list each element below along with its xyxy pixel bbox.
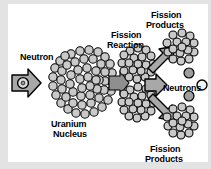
label-fission-products-top-line2: Products — [146, 21, 184, 30]
label-neutron: Neutron — [20, 53, 53, 62]
figure-root: Neutron Uranium Nucleus Fission Reaction… — [0, 0, 211, 169]
label-neutrons: Neutrons — [163, 84, 201, 93]
incoming-neutron-arrow-icon — [12, 69, 41, 97]
label-fission-reaction-line2: Reaction — [107, 41, 144, 50]
neutron-particle — [184, 68, 194, 78]
fission-product-cluster-top — [163, 29, 198, 65]
diagram-panel: Neutron Uranium Nucleus Fission Reaction… — [8, 4, 208, 162]
label-uranium-nucleus-line2: Nucleus — [53, 130, 87, 139]
uranium-nucleus — [49, 46, 116, 118]
label-fission-products-bottom-line2: Products — [145, 155, 183, 162]
